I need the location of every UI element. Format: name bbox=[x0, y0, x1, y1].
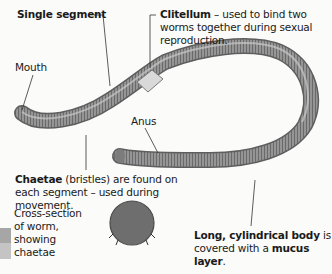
label-cross-section: Cross-section of worm, showing chaetae bbox=[14, 207, 94, 259]
leader-single-segment bbox=[94, 15, 110, 86]
label-mouth: Mouth bbox=[15, 61, 47, 74]
swatch-top bbox=[0, 228, 11, 243]
leader-anus bbox=[145, 128, 158, 153]
label-single-segment: Single segment bbox=[17, 8, 106, 21]
leader-body bbox=[251, 180, 255, 226]
swatch-bottom bbox=[0, 243, 11, 259]
worm-body bbox=[22, 43, 311, 160]
label-body: Long, cylindrical body is covered with a… bbox=[194, 229, 332, 268]
leader-mouth bbox=[22, 75, 33, 110]
label-clitellum: Clitellum – used to bind two worms toget… bbox=[160, 8, 332, 47]
worm-tail bbox=[115, 149, 125, 163]
label-anus: Anus bbox=[131, 115, 156, 128]
